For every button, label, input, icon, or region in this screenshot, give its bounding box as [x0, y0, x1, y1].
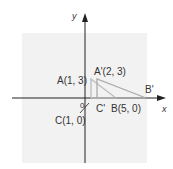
point-a-prime-label: A'(2, 3) — [94, 66, 126, 77]
x-axis-arrow-icon — [157, 95, 166, 101]
point-a-label: A(1, 3) — [57, 75, 87, 86]
origin-label: 0 — [80, 101, 85, 110]
y-axis-label: y — [71, 11, 77, 21]
y-axis-arrow-icon — [82, 13, 88, 22]
point-b-prime-label: B' — [145, 84, 154, 95]
point-c-prime-label: C' — [96, 103, 105, 114]
point-b-label: B(5, 0) — [111, 103, 141, 114]
coordinate-diagram: y x 0 A(1, 3) A'(2, 3) B' B(5, 0) C' C(1… — [0, 0, 173, 169]
point-c-label: C(1, 0) — [55, 115, 86, 126]
x-axis-label: x — [161, 104, 167, 114]
